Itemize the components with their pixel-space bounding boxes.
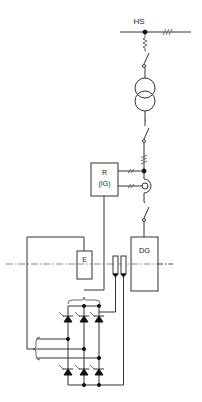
current-transformer [142, 173, 151, 202]
busbar-label: HS [133, 17, 144, 26]
thyristor-lower-2 [75, 365, 89, 375]
thyristor-upper-1 [59, 312, 73, 322]
hs-busbar: HS [120, 17, 191, 35]
thyristor-bridge [33, 297, 104, 387]
breaker-middle [141, 120, 149, 173]
transformer [135, 78, 155, 120]
regulator-label-r: R [102, 169, 107, 176]
thyristor-upper-3 [90, 312, 104, 322]
breaker-generator [143, 202, 150, 237]
generator-label: DG [139, 246, 150, 255]
exciter-label: E [82, 256, 87, 263]
generator: DG [131, 237, 173, 291]
single-line-diagram: HS R (IG) [0, 0, 202, 402]
thyristor-upper-2 [75, 312, 89, 322]
thyristor-lower-3 [90, 365, 104, 375]
exciter: E [27, 237, 92, 349]
thyristor-lower-1 [59, 365, 73, 375]
disconnector-top [143, 34, 150, 78]
regulator-label-ig: (IG) [98, 180, 110, 188]
